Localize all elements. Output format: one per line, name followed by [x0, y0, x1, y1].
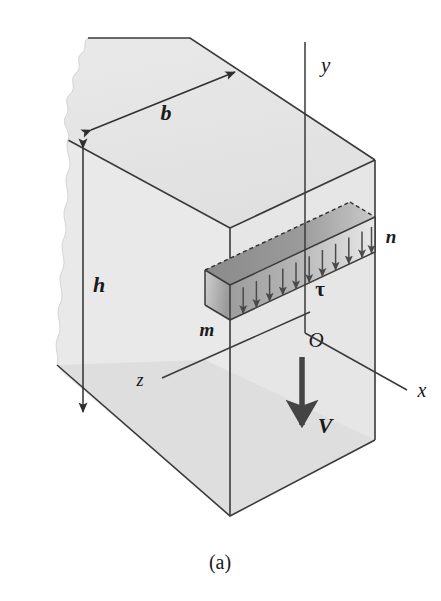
axis-x-label: x [417, 379, 427, 401]
beam-shear-diagram: z [0, 0, 441, 601]
axis-z-label: z [135, 370, 143, 390]
axis-y-label: y [319, 53, 331, 77]
figure-container: z [0, 0, 441, 601]
shear-force-label: V [318, 413, 335, 438]
element-label-n: n [386, 226, 397, 247]
dimension-b-label: b [161, 100, 172, 125]
shear-stress-label: τ [315, 277, 325, 301]
figure-caption: (a) [209, 551, 231, 574]
element-label-m: m [200, 319, 215, 340]
dimension-h-label: h [93, 272, 105, 297]
